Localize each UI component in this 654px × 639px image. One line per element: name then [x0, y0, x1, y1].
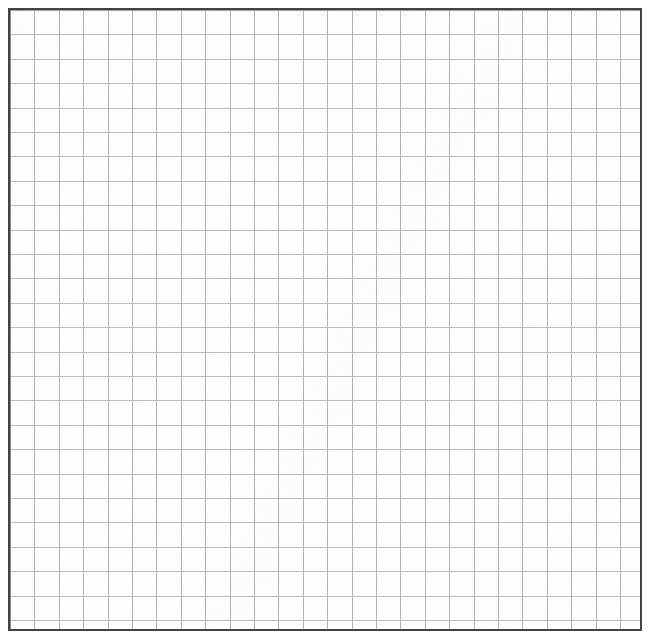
page-canvas — [0, 0, 654, 639]
grid-lines — [10, 10, 640, 629]
grid-paper-sheet — [8, 8, 642, 631]
